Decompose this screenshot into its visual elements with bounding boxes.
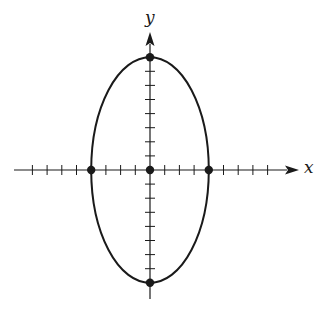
- x-axis-arrow-icon: [285, 166, 299, 175]
- plot-area: [0, 0, 329, 310]
- y-axis: [146, 32, 155, 299]
- y-axis-label: y: [145, 9, 155, 26]
- center-point: [146, 166, 154, 174]
- right-covertex-point: [205, 166, 213, 174]
- top-vertex-point: [146, 53, 154, 61]
- y-axis-arrow-icon: [146, 32, 155, 46]
- x-axis: [14, 166, 299, 175]
- ellipse-figure: x y: [0, 0, 329, 310]
- x-axis-label: x: [304, 159, 314, 176]
- left-covertex-point: [87, 166, 95, 174]
- bottom-vertex-point: [146, 279, 154, 287]
